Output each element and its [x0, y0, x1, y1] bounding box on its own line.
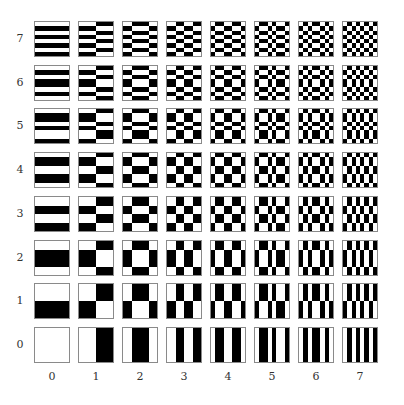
basis-image	[342, 152, 378, 188]
basis-image	[34, 21, 70, 57]
basis-image	[166, 108, 202, 144]
basis-image	[122, 21, 158, 57]
basis-image	[166, 196, 202, 232]
basis-image	[122, 196, 158, 232]
basis-image	[254, 108, 290, 144]
basis-image	[210, 21, 246, 57]
basis-image	[254, 65, 290, 101]
basis-image	[210, 65, 246, 101]
basis-image	[122, 327, 158, 363]
basis-image	[298, 21, 334, 57]
basis-image	[210, 108, 246, 144]
basis-image	[210, 283, 246, 319]
basis-image	[122, 65, 158, 101]
row-label: 7	[13, 32, 27, 45]
basis-image	[78, 283, 114, 319]
basis-image	[34, 196, 70, 232]
basis-image	[254, 327, 290, 363]
basis-image	[34, 240, 70, 276]
basis-image	[210, 196, 246, 232]
column-label: 2	[133, 370, 147, 383]
basis-image	[342, 65, 378, 101]
basis-image	[34, 152, 70, 188]
row-label: 4	[13, 163, 27, 176]
basis-image	[254, 21, 290, 57]
column-label: 5	[265, 370, 279, 383]
basis-image	[298, 196, 334, 232]
row-label: 6	[13, 76, 27, 89]
basis-image	[210, 152, 246, 188]
basis-image	[78, 65, 114, 101]
basis-image	[298, 65, 334, 101]
basis-image	[254, 196, 290, 232]
basis-image	[298, 327, 334, 363]
column-label: 4	[221, 370, 235, 383]
basis-image	[78, 21, 114, 57]
basis-image	[342, 283, 378, 319]
basis-image	[34, 283, 70, 319]
basis-image	[342, 327, 378, 363]
basis-image	[166, 21, 202, 57]
basis-image	[254, 152, 290, 188]
basis-image	[122, 108, 158, 144]
basis-image	[254, 240, 290, 276]
row-label: 3	[13, 207, 27, 220]
basis-image	[78, 108, 114, 144]
basis-image	[298, 108, 334, 144]
column-label: 0	[45, 370, 59, 383]
basis-image	[166, 283, 202, 319]
basis-image	[298, 240, 334, 276]
column-label: 3	[177, 370, 191, 383]
basis-image	[78, 240, 114, 276]
basis-image	[122, 283, 158, 319]
basis-image	[34, 65, 70, 101]
basis-image	[78, 152, 114, 188]
basis-grid: 0123456701234567	[0, 0, 404, 405]
row-label: 5	[13, 119, 27, 132]
column-label: 6	[309, 370, 323, 383]
basis-image	[166, 65, 202, 101]
basis-image	[254, 283, 290, 319]
basis-image	[166, 152, 202, 188]
column-label: 7	[353, 370, 367, 383]
basis-image	[342, 21, 378, 57]
basis-image	[298, 283, 334, 319]
basis-image	[122, 152, 158, 188]
basis-image	[78, 327, 114, 363]
row-label: 1	[13, 294, 27, 307]
basis-image	[342, 240, 378, 276]
basis-image	[210, 240, 246, 276]
basis-image	[210, 327, 246, 363]
row-label: 2	[13, 251, 27, 264]
column-label: 1	[89, 370, 103, 383]
basis-image	[34, 108, 70, 144]
basis-image	[298, 152, 334, 188]
basis-image	[342, 196, 378, 232]
basis-image	[122, 240, 158, 276]
basis-image	[78, 196, 114, 232]
basis-image	[166, 240, 202, 276]
row-label: 0	[13, 338, 27, 351]
basis-image	[166, 327, 202, 363]
basis-image	[34, 327, 70, 363]
basis-image	[342, 108, 378, 144]
